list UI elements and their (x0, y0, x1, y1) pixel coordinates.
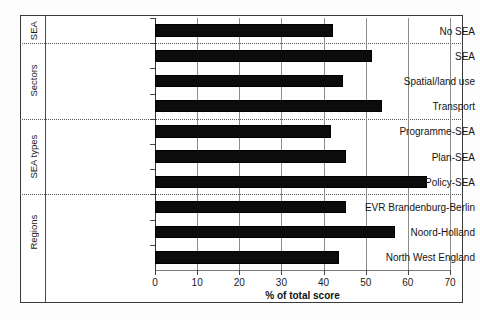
y-tick (150, 194, 155, 195)
category-label: No SEA (328, 25, 480, 36)
x-tick-40 (324, 270, 325, 275)
y-tick (150, 144, 155, 145)
chart-figure: SEASectorsSEA typesRegions No SEASEASpat… (0, 0, 480, 320)
group-label-regions: Regions (20, 194, 46, 270)
x-tick-label-60: 60 (402, 277, 413, 288)
x-tick-20 (239, 270, 240, 275)
x-tick-label-10: 10 (192, 277, 203, 288)
y-tick (150, 119, 155, 120)
y-tick (150, 94, 155, 95)
group-label-sea: SEA (20, 18, 46, 43)
category-label: North West England (328, 252, 480, 263)
category-label: Noord-Holland (328, 227, 480, 238)
group-label-sectors: Sectors (20, 43, 46, 119)
category-label: Plan-SEA (328, 151, 480, 162)
x-tick-label-20: 20 (234, 277, 245, 288)
group-labels: SEASectorsSEA typesRegions (20, 0, 46, 320)
x-tick-label-40: 40 (318, 277, 329, 288)
category-label: Spatial/land use (328, 76, 480, 87)
x-tick-label-0: 0 (152, 277, 158, 288)
x-tick-label-70: 70 (444, 277, 455, 288)
bar (155, 251, 339, 264)
x-tick-30 (281, 270, 282, 275)
x-axis-line (155, 270, 450, 271)
y-tick (150, 245, 155, 246)
x-tick-label-50: 50 (360, 277, 371, 288)
category-label: Transport (328, 101, 480, 112)
bar (155, 75, 343, 88)
x-tick-60 (408, 270, 409, 275)
category-label: SEA (328, 50, 480, 61)
bar (155, 201, 346, 214)
category-label: Programme-SEA (328, 126, 480, 137)
bar (155, 150, 346, 163)
x-tick-50 (366, 270, 367, 275)
group-label-sea-types: SEA types (20, 119, 46, 195)
x-tick-10 (197, 270, 198, 275)
bar (155, 24, 333, 37)
y-tick (150, 68, 155, 69)
y-tick (150, 220, 155, 221)
y-tick (150, 18, 155, 19)
x-tick-0 (155, 270, 156, 275)
category-label: Policy-SEA (328, 176, 480, 187)
x-tick-label-30: 30 (276, 277, 287, 288)
category-label: EVR Brandenburg-Berlin (328, 202, 480, 213)
x-axis-label: % of total score (155, 290, 450, 301)
x-tick-70 (450, 270, 451, 275)
bar (155, 125, 331, 138)
y-tick (150, 169, 155, 170)
y-tick (150, 43, 155, 44)
